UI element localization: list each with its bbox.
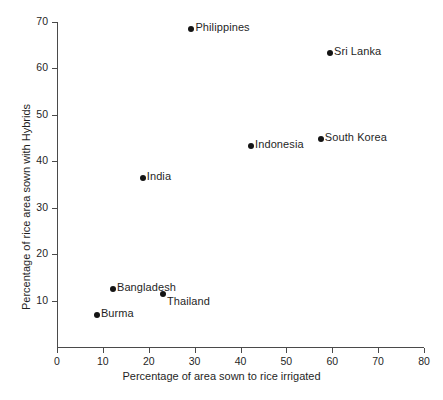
- y-tick-10: [52, 301, 57, 302]
- data-point-label-philippines: Philippines: [195, 21, 249, 33]
- x-tick-0: [57, 348, 58, 353]
- y-tick-label-60: 60: [22, 61, 48, 73]
- x-tick-40: [241, 348, 242, 353]
- data-point-indonesia: [248, 143, 254, 149]
- data-point-philippines: [188, 26, 194, 32]
- data-point-label-bangladesh: Bangladesh: [117, 281, 176, 293]
- x-tick-label-70: 70: [363, 355, 393, 367]
- y-axis-line: [57, 22, 58, 347]
- data-point-label-indonesia: Indonesia: [255, 138, 304, 150]
- x-tick-label-60: 60: [317, 355, 347, 367]
- x-tick-20: [149, 348, 150, 353]
- data-point-label-burma: Burma: [101, 307, 134, 319]
- y-tick-50: [52, 115, 57, 116]
- x-tick-label-30: 30: [180, 355, 210, 367]
- y-tick-20: [52, 254, 57, 255]
- data-point-label-south-korea: South Korea: [325, 131, 387, 143]
- data-point-bangladesh: [110, 286, 116, 292]
- x-tick-70: [378, 348, 379, 353]
- x-tick-label-10: 10: [88, 355, 118, 367]
- data-point-label-sri-lanka: Sri Lanka: [334, 45, 381, 57]
- data-point-burma: [94, 312, 100, 318]
- y-tick-70: [52, 22, 57, 23]
- x-tick-label-50: 50: [271, 355, 301, 367]
- x-tick-10: [103, 348, 104, 353]
- data-point-label-india: India: [147, 170, 171, 182]
- data-point-south-korea: [318, 136, 324, 142]
- x-tick-label-40: 40: [226, 355, 256, 367]
- data-point-thailand: [160, 291, 166, 297]
- data-point-label-thailand: Thailand: [167, 295, 210, 307]
- x-tick-30: [195, 348, 196, 353]
- data-point-sri-lanka: [327, 50, 333, 56]
- scatter-chart: 01020304050607080 10203040506070 BurmaBa…: [0, 0, 443, 400]
- y-tick-60: [52, 68, 57, 69]
- x-tick-50: [286, 348, 287, 353]
- y-axis-title: Percentage of rice area sown with Hybrid…: [20, 104, 32, 310]
- x-tick-label-20: 20: [134, 355, 164, 367]
- y-tick-30: [52, 208, 57, 209]
- y-tick-label-70: 70: [22, 15, 48, 27]
- x-tick-80: [424, 348, 425, 353]
- x-axis-title: Percentage of area sown to rice irrigate…: [0, 370, 443, 382]
- x-tick-60: [332, 348, 333, 353]
- data-point-india: [140, 175, 146, 181]
- x-tick-label-80: 80: [409, 355, 439, 367]
- x-tick-label-0: 0: [42, 355, 72, 367]
- y-tick-40: [52, 161, 57, 162]
